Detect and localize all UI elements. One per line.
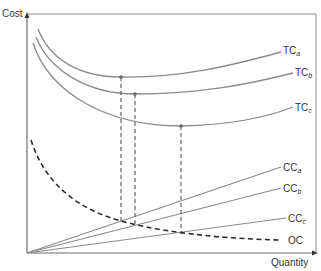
cc-a-label: CCa <box>283 162 301 174</box>
y-axis-label: Cost <box>2 8 23 19</box>
cc-a-line <box>27 167 281 253</box>
cc-c-line <box>27 218 286 253</box>
tc-a-curve <box>38 29 281 77</box>
tc-a-label: TCa <box>283 45 300 57</box>
x-axis-label: Quantity <box>271 257 308 268</box>
cc-b-label: CCb <box>283 183 301 195</box>
tc-b-curve <box>36 37 293 94</box>
tc-a-min-point <box>119 75 123 79</box>
cc-b-line <box>27 188 281 253</box>
cost-diagram: Cost Quantity TCa TCb TCc CCa CCb CCc OC <box>0 0 321 271</box>
oc-curve <box>31 140 282 240</box>
x-axis-arrow-icon <box>312 251 318 256</box>
tc-c-label: TCc <box>295 102 312 114</box>
tc-b-min-point <box>133 92 137 96</box>
y-axis-arrow-icon <box>25 12 30 18</box>
cc-c-label: CCc <box>288 213 306 225</box>
tc-c-min-point <box>179 124 183 128</box>
oc-label: OC <box>288 235 303 246</box>
tc-c-curve <box>33 43 293 126</box>
tc-b-label: TCb <box>295 67 312 79</box>
